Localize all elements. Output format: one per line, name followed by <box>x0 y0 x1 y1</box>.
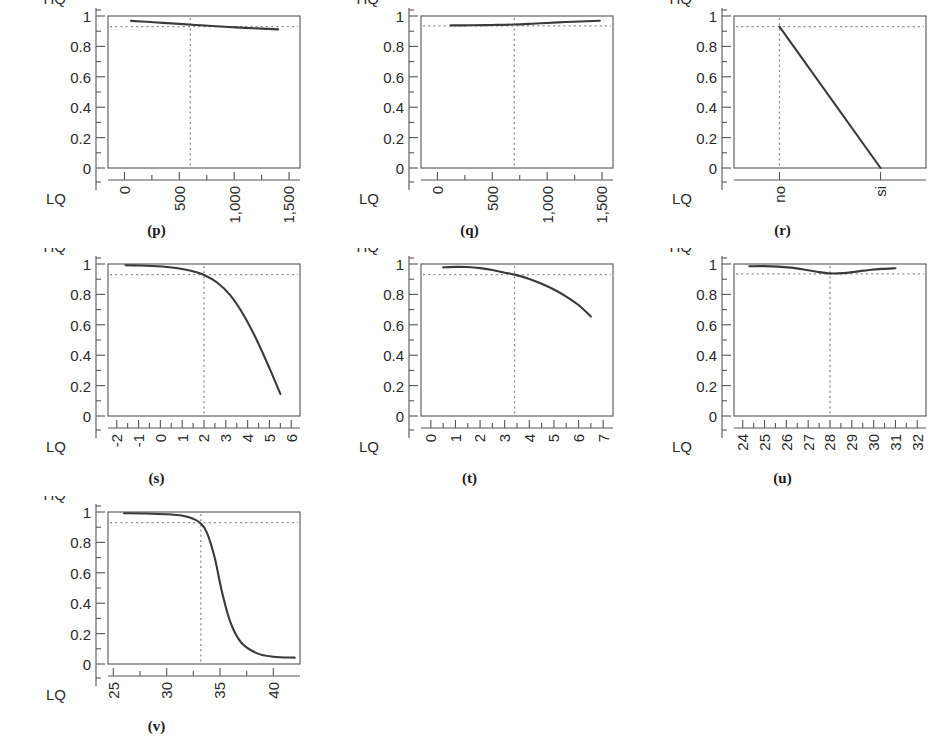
axis-label-lq: LQ <box>672 190 692 207</box>
x-tick-label: 25 <box>756 434 773 451</box>
x-tick-label: 29 <box>843 434 860 451</box>
x-tick-label: 35 <box>211 682 228 699</box>
axis-label-hq: HQ <box>670 248 693 255</box>
axis-label-lq: LQ <box>46 438 66 455</box>
x-tick-label: 7 <box>595 434 612 442</box>
y-tick-label: 0 <box>83 408 91 425</box>
x-tick-label: 0 <box>116 186 133 194</box>
plot-frame <box>421 264 613 416</box>
axis-label-hq: HQ <box>44 496 67 503</box>
plot-p: 10.80.60.40.20HQLQ05001,0001,500 <box>0 0 313 250</box>
y-tick-label: 0.2 <box>70 626 91 643</box>
panel-caption: (s) <box>0 470 313 487</box>
x-tick-label: 500 <box>171 186 188 211</box>
y-tick-label: 0.2 <box>70 378 91 395</box>
axis-label-hq: HQ <box>357 248 380 255</box>
panel-caption: (v) <box>0 718 313 735</box>
axis-label-lq: LQ <box>46 686 66 703</box>
y-tick-label: 0.4 <box>70 347 91 364</box>
y-tick-label: 1 <box>709 8 717 25</box>
axis-label-lq: LQ <box>359 438 379 455</box>
axis-label-hq: HQ <box>670 0 693 7</box>
panel-caption: (q) <box>313 222 626 239</box>
y-tick-label: 0.4 <box>383 347 404 364</box>
panel-p: 10.80.60.40.20HQLQ05001,0001,500(p) <box>0 0 313 250</box>
panel-caption: (t) <box>313 470 626 487</box>
x-tick-label: 1 <box>447 434 464 442</box>
x-tick-label: 6 <box>570 434 587 442</box>
y-tick-label: 0.6 <box>383 317 404 334</box>
x-tick-label: 1,000 <box>539 186 556 224</box>
y-tick-label: 0.4 <box>383 99 404 116</box>
plot-frame <box>734 16 926 168</box>
data-curve <box>779 27 880 168</box>
y-tick-label: 0.6 <box>70 69 91 86</box>
data-curve <box>124 513 295 657</box>
x-tick-label: 25 <box>105 682 122 699</box>
x-tick-label: -1 <box>130 434 147 447</box>
x-tick-label: 6 <box>283 434 300 442</box>
x-tick-label: 0 <box>422 434 439 442</box>
x-tick-label: 40 <box>265 682 282 699</box>
panel-v: 10.80.60.40.20HQLQ25303540(v) <box>0 496 313 746</box>
axis-label-lq: LQ <box>672 438 692 455</box>
x-tick-label: 2 <box>471 434 488 442</box>
x-tick-label: 28 <box>821 434 838 451</box>
panel-caption: (p) <box>0 222 313 239</box>
y-tick-label: 0.6 <box>383 69 404 86</box>
y-tick-label: 0.4 <box>70 595 91 612</box>
y-tick-label: 1 <box>83 8 91 25</box>
y-tick-label: 0.8 <box>696 38 717 55</box>
data-curve <box>125 265 280 394</box>
panel-caption: (u) <box>626 470 939 487</box>
x-tick-label: 32 <box>909 434 926 451</box>
axis-label-hq: HQ <box>44 0 67 7</box>
y-tick-label: 1 <box>396 8 404 25</box>
axis-label-hq: HQ <box>44 248 67 255</box>
y-tick-label: 0.8 <box>383 38 404 55</box>
panel-caption: (r) <box>626 222 939 239</box>
x-tick-label: 2 <box>195 434 212 442</box>
x-tick-label: 31 <box>887 434 904 451</box>
y-tick-label: 0 <box>709 408 717 425</box>
plot-frame <box>108 512 300 664</box>
x-tick-label: 4 <box>239 434 256 442</box>
x-tick-label: 1 <box>174 434 191 442</box>
y-tick-label: 0.2 <box>696 130 717 147</box>
axis-label-lq: LQ <box>359 190 379 207</box>
plot-frame <box>108 16 300 168</box>
y-tick-label: 0.6 <box>696 317 717 334</box>
panel-s: 10.80.60.40.20HQLQ-2-10123456(s) <box>0 248 313 498</box>
plot-r: 10.80.60.40.20HQLQnosi <box>626 0 939 250</box>
y-tick-label: 0.4 <box>70 99 91 116</box>
plot-t: 10.80.60.40.20HQLQ01234567 <box>313 248 626 498</box>
x-tick-label: 5 <box>545 434 562 442</box>
data-curve <box>749 266 895 273</box>
x-tick-label: si <box>872 186 889 197</box>
y-tick-label: 0.2 <box>383 378 404 395</box>
panel-r: 10.80.60.40.20HQLQnosi(r) <box>626 0 939 250</box>
data-curve <box>131 21 278 30</box>
x-tick-label: no <box>771 186 788 203</box>
plot-frame <box>421 16 613 168</box>
x-tick-label: 5 <box>261 434 278 442</box>
x-tick-label: 27 <box>800 434 817 451</box>
x-tick-label: 1,500 <box>280 186 297 224</box>
y-tick-label: 0.2 <box>70 130 91 147</box>
y-tick-label: 0.4 <box>696 347 717 364</box>
y-tick-label: 0.8 <box>383 286 404 303</box>
y-tick-label: 0.8 <box>696 286 717 303</box>
y-tick-label: 0.8 <box>70 38 91 55</box>
x-tick-label: 30 <box>158 682 175 699</box>
plot-u: 10.80.60.40.20HQLQ242526272829303132 <box>626 248 939 498</box>
axis-label-lq: LQ <box>46 190 66 207</box>
axis-label-hq: HQ <box>357 0 380 7</box>
panel-u: 10.80.60.40.20HQLQ242526272829303132(u) <box>626 248 939 498</box>
x-tick-label: 3 <box>217 434 234 442</box>
y-tick-label: 1 <box>83 504 91 521</box>
y-tick-label: 0 <box>396 408 404 425</box>
panel-t: 10.80.60.40.20HQLQ01234567(t) <box>313 248 626 498</box>
plot-s: 10.80.60.40.20HQLQ-2-10123456 <box>0 248 313 498</box>
x-tick-label: 26 <box>778 434 795 451</box>
y-tick-label: 0 <box>396 160 404 177</box>
